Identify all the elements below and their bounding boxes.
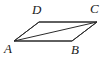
vertex-label-b: B (71, 43, 79, 56)
vertex-label-d: D (32, 3, 41, 16)
geometry-figure: A B C D (0, 0, 110, 59)
vertex-label-a: A (4, 42, 12, 55)
vertex-label-c: C (90, 2, 99, 15)
